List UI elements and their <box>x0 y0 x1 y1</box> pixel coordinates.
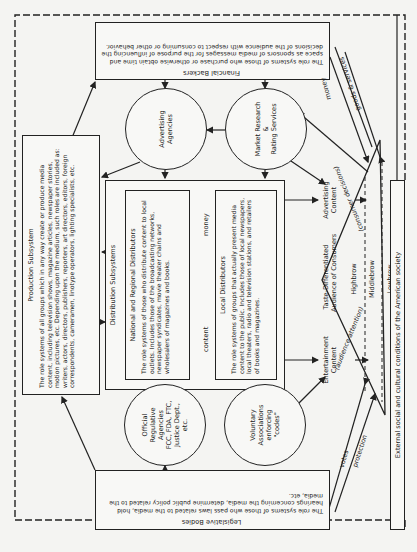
official-label-1: Official <box>141 414 149 437</box>
voluntary-label-3: enforcing <box>265 410 273 441</box>
advertising-agencies-circle: Advertising Agencies <box>125 88 207 170</box>
official-label-3: Agencies <box>157 410 165 440</box>
advertising-agencies-label-1: Advertising <box>158 110 166 147</box>
national-distributors-box: National and Regional Distributors The r… <box>125 190 190 380</box>
market-research-circle: Market Research & Rating Services <box>225 88 307 170</box>
media-system-diagram: Production Subsystem The role systems of… <box>0 0 417 552</box>
production-text: The role systems of all groups which in … <box>38 142 76 388</box>
middlebrow-tier: Middlebrow <box>368 254 376 304</box>
national-distributors-title: National and Regional Distributors <box>129 196 137 374</box>
audience-title-line-1: Taste-Differentiated <box>322 242 330 312</box>
content-flow-label: content <box>202 327 210 352</box>
audience-title: Taste-Differentiated Audience of Consume… <box>322 242 338 312</box>
financial-backers-title: Financial Backers <box>100 69 323 77</box>
legislative-bodies-text: The role systems of those who pass laws … <box>100 492 323 515</box>
voluntary-label-2: Associations <box>257 405 265 446</box>
voluntary-associations-circle: Voluntary Associations enforcing "codes" <box>224 384 306 466</box>
external-conditions-text: External social and cultural conditions … <box>394 252 402 458</box>
official-label-2: Regulative <box>149 408 157 443</box>
advertising-agencies-label-2: Agencies <box>166 114 174 144</box>
advertising-content-line-1: Advertising <box>322 176 330 224</box>
market-research-label-2: & <box>262 126 270 131</box>
advertising-content-line-2: Content <box>330 176 338 224</box>
national-distributors-text: The role systems of those who distribute… <box>140 196 170 374</box>
external-conditions-box: External social and cultural conditions … <box>390 180 405 530</box>
official-label-4: FCC, FDA, FTC, <box>165 401 173 450</box>
audience-title-line-2: Audience of Consumers <box>330 242 338 312</box>
market-research-label-3: Rating Services <box>270 103 278 154</box>
production-title: Production Subsystem <box>27 142 35 388</box>
official-label-5: Justice Dept., <box>173 403 181 447</box>
production-subsystem-box: Production Subsystem The role systems of… <box>22 135 100 395</box>
money-flow-label: money <box>202 213 210 236</box>
financial-backers-box: Financial Backers The role systems of th… <box>95 22 330 80</box>
advertising-content-label: Advertising Content <box>322 176 338 224</box>
entertainment-content-line-1: Entertainment <box>322 334 330 386</box>
local-distributors-title: Local Distributors <box>219 196 227 374</box>
official-regulative-agencies-circle: Official Regulative Agencies FCC, FDA, F… <box>124 384 206 466</box>
legislative-bodies-box: Legislative Bodies The role systems of t… <box>95 470 330 530</box>
local-distributors-box: Local Distributors The role systems of g… <box>215 190 277 380</box>
official-label-6: etc. <box>181 419 189 431</box>
voluntary-label-1: Voluntary <box>249 409 257 440</box>
distribution-title: Distribution Subsystems <box>109 181 117 389</box>
market-research-label-1: Market Research <box>254 102 262 157</box>
legislative-bodies-title: Legislative Bodies <box>100 518 323 526</box>
local-distributors-text: The role systems of groups that actually… <box>230 196 260 374</box>
voluntary-label-4: "codes" <box>273 412 281 437</box>
highbrow-tier: Highbrow <box>350 254 358 304</box>
financial-backers-text: The role systems of those who purchase o… <box>100 43 323 66</box>
